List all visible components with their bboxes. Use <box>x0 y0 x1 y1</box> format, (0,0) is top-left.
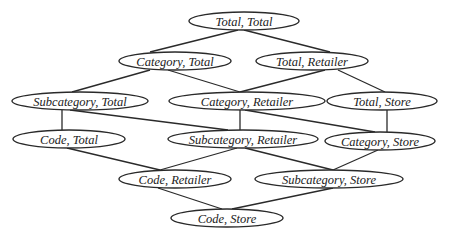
node-label: Total, Store <box>353 95 411 109</box>
node-label: Subcategory, Store <box>282 173 376 187</box>
node-category-total: Category, Total <box>119 52 231 70</box>
edge-total-retailer-to-category-retailer <box>240 70 325 92</box>
node-category-store: Category, Store <box>325 132 435 150</box>
edge-subcategory-total-to-subcategory-retailer <box>70 110 228 130</box>
node-code-total: Code, Total <box>13 130 125 148</box>
edge-total-total-to-total-retailer <box>244 30 330 52</box>
edge-subcategory-store-to-code-store <box>232 188 333 209</box>
node-total-store: Total, Store <box>327 92 437 110</box>
edge-subcategory-retailer-to-code-retailer <box>160 148 237 170</box>
node-label: Total, Total <box>216 15 273 29</box>
node-subcategory-retailer: Subcategory, Retailer <box>168 130 318 148</box>
node-label: Category, Store <box>341 135 419 149</box>
node-subcategory-store: Subcategory, Store <box>255 170 403 188</box>
node-label: Category, Total <box>136 55 214 69</box>
edge-category-store-to-subcategory-store <box>333 150 378 170</box>
node-label: Code, Total <box>40 133 98 147</box>
edge-category-total-to-category-retailer <box>168 70 240 92</box>
node-label: Total, Retailer <box>276 55 348 69</box>
node-label: Code, Retailer <box>139 173 212 187</box>
hierarchy-lattice-diagram: Total, TotalCategory, TotalTotal, Retail… <box>0 0 453 242</box>
edge-category-retailer-to-category-store <box>245 110 375 132</box>
edge-code-retailer-to-code-store <box>158 188 222 209</box>
node-label: Code, Store <box>198 212 257 226</box>
node-label: Subcategory, Total <box>33 95 127 109</box>
node-code-store: Code, Store <box>171 209 283 227</box>
edge-total-retailer-to-total-store <box>338 70 385 92</box>
node-total-total: Total, Total <box>189 12 299 30</box>
node-label: Category, Retailer <box>201 95 293 109</box>
node-total-retailer: Total, Retailer <box>256 52 368 70</box>
edge-category-total-to-subcategory-total <box>72 70 150 92</box>
node-label: Subcategory, Retailer <box>189 133 297 147</box>
edge-subcategory-retailer-to-subcategory-store <box>245 148 333 170</box>
node-code-retailer: Code, Retailer <box>119 170 231 188</box>
node-subcategory-total: Subcategory, Total <box>12 92 148 110</box>
diagram-canvas: Total, TotalCategory, TotalTotal, Retail… <box>0 0 453 242</box>
edge-code-total-to-code-retailer <box>67 148 160 170</box>
edge-total-total-to-category-total <box>150 30 238 52</box>
nodes-layer: Total, TotalCategory, TotalTotal, Retail… <box>12 12 437 227</box>
node-category-retailer: Category, Retailer <box>169 92 325 110</box>
